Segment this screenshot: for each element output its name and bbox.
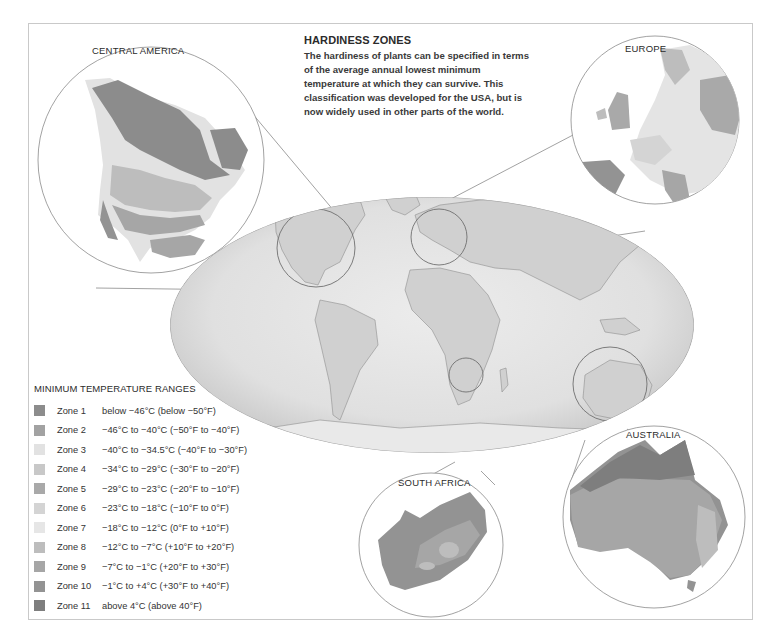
zone-swatch-icon: [34, 600, 45, 611]
zone-range: −46°C to −40°C (−50°F to −40°F): [102, 425, 239, 435]
legend-item: Zone 1below −46°C (below −50°F): [34, 401, 294, 421]
zone-swatch-icon: [34, 444, 45, 455]
legend-item: Zone 2−46°C to −40°C (−50°F to −40°F): [34, 421, 294, 441]
zone-name: Zone 8: [57, 542, 102, 552]
inset-central-america: [38, 47, 264, 273]
legend-title: MINIMUM TEMPERATURE RANGES: [34, 383, 294, 394]
zone-name: Zone 4: [57, 464, 102, 474]
zone-name: Zone 1: [57, 406, 102, 416]
zone-name: Zone 6: [57, 503, 102, 513]
legend-item: Zone 5−29°C to −23°C (−20°F to −10°F): [34, 479, 294, 499]
zone-name: Zone 10: [57, 581, 102, 591]
zone-range: −12°C to −7°C (+10°F to +20°F): [102, 542, 234, 552]
zone-range: −23°C to −18°C (−10°F to 0°F): [102, 503, 229, 513]
zone-range: −18°C to −12°C (0°F to +10°F): [102, 523, 229, 533]
zone-range: −40°C to −34.5°C (−40°F to −30°F): [102, 445, 247, 455]
zone-name: Zone 11: [57, 601, 102, 611]
zone-swatch-icon: [34, 561, 45, 572]
legend-item: Zone 4−34°C to −29°C (−30°F to −20°F): [34, 460, 294, 480]
zone-range: −7°C to −1°C (+20°F to +30°F): [102, 562, 229, 572]
legend-item: Zone 9−7°C to −1°C (+20°F to +30°F): [34, 557, 294, 577]
zone-range: −1°C to +4°C (+30°F to +40°F): [102, 581, 229, 591]
inset-australia: [563, 426, 745, 608]
intro-description: The hardiness of plants can be specified…: [304, 49, 534, 119]
zone-swatch-icon: [34, 464, 45, 475]
zone-swatch-icon: [34, 503, 45, 514]
zone-name: Zone 9: [57, 562, 102, 572]
intro-text: HARDINESS ZONES The hardiness of plants …: [304, 34, 534, 119]
legend-item: Zone 7−18°C to −12°C (0°F to +10°F): [34, 518, 294, 538]
zone-name: Zone 3: [57, 445, 102, 455]
zone-swatch-icon: [34, 542, 45, 553]
inset-south-africa: [359, 473, 503, 617]
zone-swatch-icon: [34, 581, 45, 592]
zone-range: above 4°C (above 40°F): [102, 601, 202, 611]
legend-item: Zone 10−1°C to +4°C (+30°F to +40°F): [34, 577, 294, 597]
legend-item: Zone 6−23°C to −18°C (−10°F to 0°F): [34, 499, 294, 519]
zone-range: below −46°C (below −50°F): [102, 406, 216, 416]
zone-name: Zone 5: [57, 484, 102, 494]
inset-label-australia: AUSTRALIA: [626, 429, 681, 440]
zone-swatch-icon: [34, 425, 45, 436]
zone-swatch-icon: [34, 405, 45, 416]
legend-item: Zone 8−12°C to −7°C (+10°F to +20°F): [34, 538, 294, 558]
legend-item: Zone 3−40°C to −34.5°C (−40°F to −30°F): [34, 440, 294, 460]
inset-label-south-africa: SOUTH AFRICA: [398, 477, 471, 488]
legend-item: Zone 11above 4°C (above 40°F): [34, 596, 294, 616]
inset-europe: [571, 36, 745, 205]
zone-swatch-icon: [34, 522, 45, 533]
inset-label-europe: EUROPE: [625, 43, 666, 54]
legend: MINIMUM TEMPERATURE RANGES Zone 1below −…: [34, 383, 294, 616]
inset-label-central-america: CENTRAL AMERICA: [92, 45, 184, 56]
zone-name: Zone 2: [57, 425, 102, 435]
zone-range: −34°C to −29°C (−30°F to −20°F): [102, 464, 239, 474]
zone-swatch-icon: [34, 483, 45, 494]
page-title: HARDINESS ZONES: [304, 34, 534, 46]
zone-range: −29°C to −23°C (−20°F to −10°F): [102, 484, 239, 494]
zone-name: Zone 7: [57, 523, 102, 533]
